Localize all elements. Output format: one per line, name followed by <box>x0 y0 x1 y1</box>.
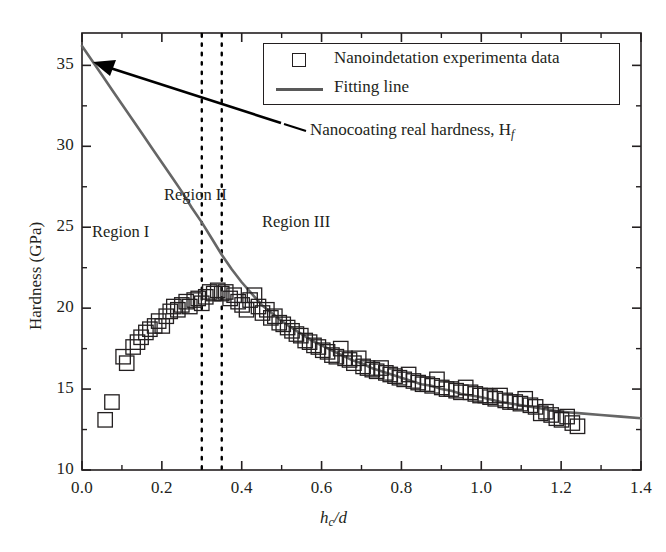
y-axis-minor-ticks <box>82 106 641 430</box>
data-point-square <box>134 330 148 344</box>
x-tick-label: 1.0 <box>461 478 501 498</box>
callout-arrow-shaft <box>104 66 281 123</box>
data-point-square <box>565 416 579 430</box>
x-tick-label: 0.0 <box>62 478 102 498</box>
data-point-square <box>98 413 112 427</box>
legend-item-fit[interactable]: Fitting line <box>264 73 619 104</box>
region-2-label: Region II <box>164 185 227 205</box>
y-tick-label: 30 <box>36 135 74 155</box>
x-tick-label: 0.4 <box>222 478 262 498</box>
callout-label-subscript: f <box>511 127 514 141</box>
x-axis-title: hc/d <box>320 508 347 530</box>
x-tick-label: 0.2 <box>142 478 182 498</box>
x-tick-label: 0.8 <box>381 478 421 498</box>
legend-item-data-label: Nanoindetation experimenta data <box>334 48 560 68</box>
data-point-square <box>430 372 444 386</box>
x-tick-label: 1.2 <box>541 478 581 498</box>
legend-item-fit-label: Fitting line <box>334 77 409 97</box>
y-tick-label: 15 <box>36 378 74 398</box>
data-point-square <box>116 350 130 364</box>
callout-label-base: Nanocoating real hardness, H <box>310 120 511 139</box>
x-tick-label: 1.4 <box>621 478 661 498</box>
region-3-label: Region III <box>262 212 330 232</box>
data-point-square <box>105 395 119 409</box>
line-swatch-icon <box>276 88 323 91</box>
data-point-square <box>126 340 140 354</box>
legend-item-data[interactable]: Nanoindetation experimenta data <box>264 44 619 75</box>
data-point-square <box>130 335 144 349</box>
y-axis-title: Hardness (GPa) <box>26 222 46 330</box>
data-point-square <box>570 419 584 433</box>
data-point-square <box>120 356 134 370</box>
open-square-icon <box>292 53 306 67</box>
callout-leader-line <box>284 124 306 131</box>
legend: Nanoindetation experimenta data Fitting … <box>263 43 620 105</box>
x-tick-label: 0.6 <box>302 478 342 498</box>
region-1-label: Region I <box>92 222 149 242</box>
callout-label: Nanocoating real hardness, Hf <box>310 120 514 142</box>
y-tick-label: 35 <box>36 54 74 74</box>
x-axis-title-rest: /d <box>334 508 347 527</box>
scatter-markers <box>98 283 585 433</box>
x-axis-title-base: h <box>320 508 329 527</box>
y-tick-label: 10 <box>36 459 74 479</box>
figure-root: 101520253035 0.00.20.40.60.81.01.21.4 Ha… <box>0 0 666 552</box>
